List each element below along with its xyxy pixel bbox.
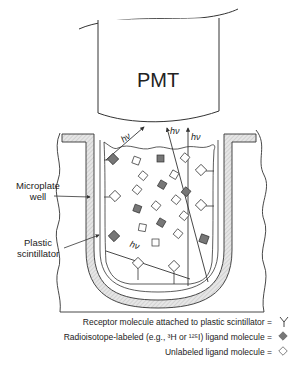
receptor-bound-molecules xyxy=(104,153,214,284)
svg-text:Microplate: Microplate xyxy=(16,180,60,191)
pmt: PMT xyxy=(79,9,238,122)
callout-microplate-well: Microplate well xyxy=(16,180,90,202)
open-diamond-icon xyxy=(279,347,287,355)
liquid xyxy=(104,142,215,284)
scintillation-proximity-assay-diagram: PMT hν hν hν hν xyxy=(0,0,302,372)
filled-diamond-icon xyxy=(279,332,287,340)
svg-text:Plastic: Plastic xyxy=(24,237,52,248)
pmt-label: PMT xyxy=(137,69,179,91)
receptor-y-icon xyxy=(280,317,288,327)
legend-receptor-text: Receptor molecule attached to plastic sc… xyxy=(83,317,272,327)
legend-unlabeled-text: Unlabeled ligand molecule = xyxy=(165,347,272,357)
svg-text:well: well xyxy=(29,191,46,202)
free-ligands xyxy=(132,153,209,246)
legend-labeled-text: Radioisotope-labeled (e.g., ³H or ¹²⁵I) … xyxy=(64,332,272,342)
photon-label-4: hν xyxy=(129,239,142,252)
photon-labels: hν hν hν hν xyxy=(119,126,201,252)
legend: Receptor molecule attached to plastic sc… xyxy=(64,317,288,357)
photon-label-3: hν xyxy=(191,132,201,142)
photon-label-2: hν xyxy=(170,126,180,136)
svg-text:scintillator: scintillator xyxy=(17,248,59,259)
photon-label-1: hν xyxy=(119,130,133,144)
